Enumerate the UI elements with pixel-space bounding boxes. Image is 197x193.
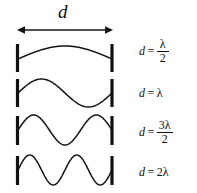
right-arrowhead <box>105 26 113 33</box>
wall-bars-row-3 <box>18 116 113 145</box>
equation-relation: = <box>148 125 155 140</box>
equation-variable: d <box>139 44 145 59</box>
fraction-denominator: 2 <box>160 133 170 146</box>
equation-variable: d <box>139 165 145 180</box>
wave-path-third-harmonic <box>18 115 112 145</box>
equation-value: λ <box>157 86 163 101</box>
equation-value: 2λ <box>157 165 169 180</box>
equation-relation: = <box>148 44 155 59</box>
equation-relation: = <box>148 165 155 180</box>
wave-path-fundamental <box>18 46 112 59</box>
equation-fourth-harmonic: d = 2λ <box>139 165 169 180</box>
equation-variable: d <box>139 86 145 101</box>
fraction-numerator: 3λ <box>157 119 173 132</box>
wave-path-fourth-harmonic <box>18 155 112 185</box>
fraction-denominator: 2 <box>158 52 168 65</box>
wave-path-second-harmonic <box>18 79 112 107</box>
dimension-arrow-group <box>17 26 113 33</box>
equation-variable: d <box>139 125 145 140</box>
dimension-label-d: d <box>58 2 68 21</box>
equation-fundamental: d = λ 2 <box>139 38 169 65</box>
fraction: 3λ 2 <box>157 119 173 146</box>
wall-bars-row-1 <box>18 44 113 72</box>
equation-third-harmonic: d = 3λ 2 <box>139 119 173 146</box>
equation-second-harmonic: d = λ <box>139 86 163 101</box>
fraction: λ 2 <box>157 38 169 65</box>
left-arrowhead <box>17 26 25 33</box>
equation-relation: = <box>148 86 155 101</box>
standing-wave-diagram: d d = λ 2 d = λ d = 3λ 2 d = 2λ <box>0 0 197 193</box>
fraction-numerator: λ <box>158 38 168 51</box>
